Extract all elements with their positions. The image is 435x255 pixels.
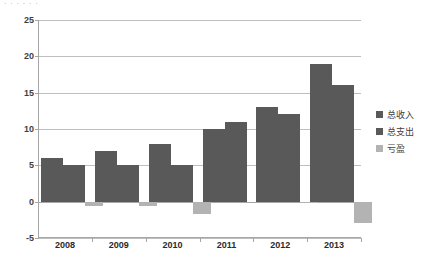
- bar-总收入-2013: [310, 64, 332, 202]
- bar-总收入-2012: [256, 107, 278, 201]
- bar-总支出-2012: [278, 114, 300, 201]
- x-axis-label-2010: 2010: [146, 240, 200, 250]
- bars-layer: [39, 20, 361, 237]
- y-axis-tick-label: 10: [10, 124, 34, 134]
- bar-总支出-2009: [117, 165, 139, 201]
- y-axis-tick-label: -5: [10, 233, 34, 243]
- legend-item-总支出[interactable]: 总支出: [376, 124, 432, 139]
- bar-总收入-2011: [203, 129, 225, 202]
- x-axis-label-2008: 2008: [38, 240, 92, 250]
- bar-总收入-2009: [95, 151, 117, 202]
- legend-label: 总支出: [387, 125, 414, 138]
- bar-chart: · · · · · · 2520151050-5 200820092010201…: [0, 0, 435, 255]
- legend-swatch-icon: [376, 111, 383, 118]
- legend-label: 总收入: [387, 108, 414, 121]
- bar-总支出-2013: [332, 85, 354, 201]
- x-axis-labels: 200820092010201120122013: [38, 238, 361, 254]
- bar-group: [93, 20, 147, 237]
- bar-group: [147, 20, 201, 237]
- bar-总支出-2011: [225, 122, 247, 202]
- cropped-header-text: · · · · · ·: [4, 0, 82, 7]
- y-axis-tick-label: 20: [10, 51, 34, 61]
- y-axis-tick-label: 25: [10, 15, 34, 25]
- bar-总支出-2010: [171, 165, 193, 201]
- chart-legend: 总收入总支出亏盈: [376, 107, 432, 158]
- legend-label: 亏盈: [387, 142, 405, 155]
- x-axis-label-2011: 2011: [200, 240, 254, 250]
- legend-item-总收入[interactable]: 总收入: [376, 107, 432, 122]
- bar-总支出-2008: [63, 165, 85, 201]
- x-tick: [361, 238, 362, 242]
- bar-group: [201, 20, 255, 237]
- plot-area: [38, 20, 361, 238]
- legend-swatch-icon: [376, 145, 383, 152]
- bar-总收入-2008: [41, 158, 63, 202]
- x-axis-label-2009: 2009: [92, 240, 146, 250]
- legend-item-亏盈[interactable]: 亏盈: [376, 141, 432, 156]
- bar-group: [39, 20, 93, 237]
- legend-swatch-icon: [376, 128, 383, 135]
- x-axis-label-2012: 2012: [253, 240, 307, 250]
- x-axis-label-2013: 2013: [307, 240, 361, 250]
- y-axis-labels: 2520151050-5: [0, 20, 34, 238]
- bar-亏盈-2013: [354, 202, 372, 224]
- y-axis-tick-label: 15: [10, 88, 34, 98]
- bar-总收入-2010: [149, 144, 171, 202]
- y-axis-tick-label: 5: [10, 160, 34, 170]
- y-axis-tick-label: 0: [10, 197, 34, 207]
- bar-group: [254, 20, 308, 237]
- bar-group: [308, 20, 362, 237]
